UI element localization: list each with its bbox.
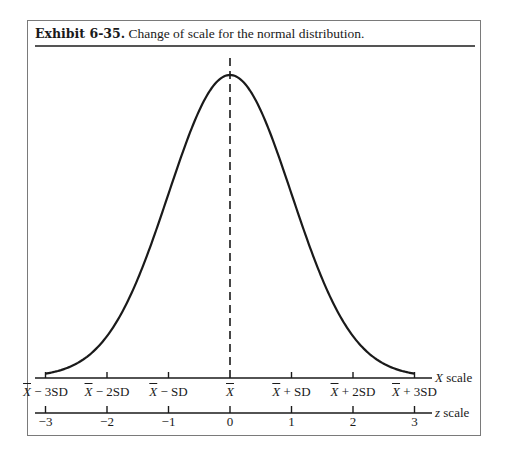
z-scale-tick-label: 2 bbox=[350, 414, 357, 430]
x-scale-tick-label: X − 2SD bbox=[85, 384, 130, 400]
z-scale-tick-label: −2 bbox=[100, 414, 114, 430]
x-scale-tick-label: X + SD bbox=[272, 384, 310, 400]
x-scale-tick-label: X − 3SD bbox=[23, 384, 68, 400]
x-scale-label: X scale bbox=[435, 370, 472, 386]
z-scale-tick-label: 1 bbox=[288, 414, 295, 430]
z-scale-label: z scale bbox=[435, 405, 469, 421]
z-scale-tick-label: 3 bbox=[411, 414, 418, 430]
x-scale-tick-label: X − SD bbox=[149, 384, 187, 400]
x-scale-tick-label: X + 2SD bbox=[331, 384, 376, 400]
z-scale-tick-label: −3 bbox=[39, 414, 53, 430]
z-scale-tick-label: 0 bbox=[227, 414, 234, 430]
z-scale-tick-label: −1 bbox=[162, 414, 176, 430]
x-scale-tick-label: X + 3SD bbox=[392, 384, 437, 400]
normal-curve bbox=[46, 75, 415, 374]
z-scale-ticks bbox=[46, 406, 415, 413]
x-scale-tick-label: X bbox=[226, 384, 234, 400]
